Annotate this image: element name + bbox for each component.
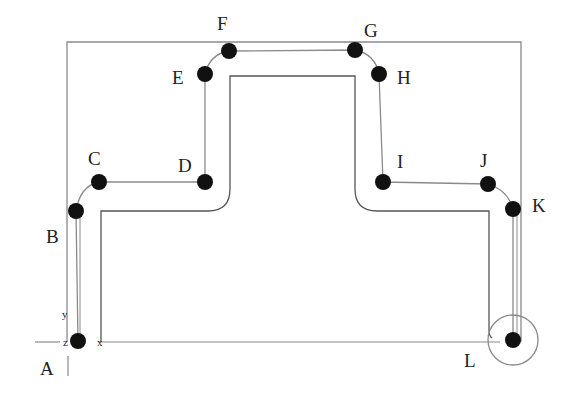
point-label-j: J [480,150,487,171]
point-label-k: K [532,195,546,216]
point-k [505,201,521,217]
part-profile [101,76,492,342]
point-label-b: B [46,226,59,247]
point-b [68,203,84,219]
point-j [480,176,496,192]
y-axis-label: y [62,308,68,320]
point-label-h: H [397,67,411,88]
point-label-e: E [172,67,184,88]
toolpath-diagram: y z x ABCDEFGHIJKL [0,0,572,405]
point-g [347,42,363,58]
point-i [375,174,391,190]
point-label-f: F [217,13,228,34]
point-label-g: G [364,20,378,41]
point-label-c: C [88,148,101,169]
point-label-a: A [40,358,54,379]
point-h [371,66,387,82]
stock-outline [67,42,521,342]
toolpath [76,50,513,341]
point-e [197,66,213,82]
points-group: ABCDEFGHIJKL [40,13,546,379]
point-f [221,43,237,59]
point-d [197,174,213,190]
point-label-d: D [178,155,192,176]
point-label-l: L [464,350,476,371]
point-c [91,174,107,190]
z-axis-label: z [63,336,68,348]
x-axis-label: x [97,336,103,348]
point-l [505,332,521,348]
point-a [70,333,86,349]
point-label-i: I [397,151,403,172]
